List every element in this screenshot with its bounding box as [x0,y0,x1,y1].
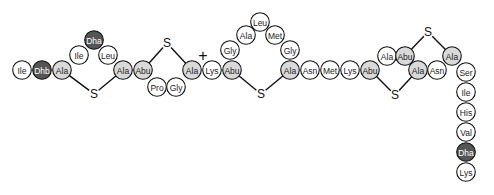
residue-ser: Ser [457,63,476,82]
thioether-bond [411,36,423,49]
residue-label: Leu [101,51,115,61]
residue-his: His [457,103,476,122]
lantibiotic-structure-diagram: SSSSS IleDhbAlaIleDhaLeuAlaAbuProGlyAlaL… [0,0,494,195]
residue-label: Ala [284,66,297,76]
residue-label: Abu [397,52,412,62]
residue-met: Met [266,26,285,45]
residue-ile: Ile [13,61,32,80]
residue-label: Ala [117,66,130,76]
residue-label: Val [460,128,472,138]
residue-leu: Leu [99,46,118,65]
sulfur-label: S [163,36,171,50]
residue-label: Lys [460,168,473,178]
residue-label: His [460,108,472,118]
thioether-bond [171,47,186,63]
thioether-bond [399,77,412,91]
residue-label: Ala [412,66,425,76]
residue-label: Gly [170,83,184,93]
residue-asn: Asn [301,61,320,80]
amino-acid-residues: IleDhbAlaIleDhaLeuAlaAbuProGlyAlaLysAbuG… [13,13,476,182]
residue-label: Lys [206,66,219,76]
residue-label: Met [268,31,283,41]
residue-label: Met [323,66,338,76]
residue-label: Abu [224,66,239,76]
residue-ile: Ile [70,46,89,65]
residue-label: Dha [86,36,102,46]
residue-label: Ala [240,31,253,41]
residue-label: Asn [303,66,318,76]
residue-abu: Abu [361,61,380,80]
residue-label: Pro [150,83,164,93]
residue-ile: Ile [457,83,476,102]
sulfur-label: S [90,87,98,101]
residue-label: Lys [344,66,357,76]
residue-val: Val [457,123,476,142]
residue-label: Dha [458,148,474,158]
residue-label: Abu [135,66,150,76]
residue-label: Gly [224,46,238,56]
residue-lys: Lys [341,61,360,80]
residue-gly: Gly [281,41,300,60]
residue-label: Ala [186,66,199,76]
residue-abu: Abu [223,61,242,80]
residue-label: Ala [56,66,69,76]
residue-lys: Lys [457,163,476,182]
residue-ala: Ala [281,61,300,80]
thioether-bond [239,76,256,90]
residue-met: Met [321,61,340,80]
residue-label: Ala [446,52,459,62]
thioether-bond [99,76,116,90]
residue-ala: Ala [114,61,133,80]
thioether-bond [266,76,283,90]
residue-ala: Ala [378,47,397,66]
thioether-bond [149,47,163,63]
sulfur-label: S [391,88,399,102]
residue-asn: Asn [428,61,447,80]
residue-dha: Dha [457,143,476,162]
residue-ala: Ala [53,61,72,80]
residue-abu: Abu [396,47,415,66]
residue-pro: Pro [148,78,167,97]
residue-gly: Gly [167,78,186,97]
residue-label: Gly [284,46,298,56]
thioether-bond [432,36,445,49]
residue-gly: Gly [221,41,240,60]
residue-label: Abu [362,66,377,76]
plus-sign: + [198,47,207,64]
residue-dha: Dha [85,31,104,50]
residue-dhb: Dhb [33,61,52,80]
residue-label: Ser [459,68,472,78]
residue-leu: Leu [251,13,270,32]
residue-label: Ile [75,51,84,61]
residue-ala: Ala [409,61,428,80]
residue-abu: Abu [134,61,153,80]
residue-label: Leu [253,18,267,28]
residue-label: Ile [462,88,471,98]
residue-ala: Ala [237,26,256,45]
thioether-bond [69,76,89,91]
residue-label: Ala [381,52,394,62]
sulfur-label: S [257,87,265,101]
residue-ala: Ala [443,47,462,66]
residue-label: Asn [430,66,445,76]
thioether-bond [377,77,391,91]
residue-label: Ile [18,66,27,76]
sulfur-label: S [424,25,432,39]
residue-label: Dhb [34,66,50,76]
